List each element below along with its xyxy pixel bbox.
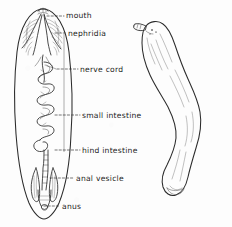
hind-intestine-structure bbox=[34, 140, 48, 190]
external-body-outline bbox=[142, 22, 201, 196]
anatomy-figure: mouth nephridia nerve cord small intesti… bbox=[0, 0, 232, 227]
label-group: mouth nephridia nerve cord small intesti… bbox=[44, 11, 142, 211]
right-external-figure bbox=[134, 22, 201, 196]
label-mouth: mouth bbox=[66, 11, 92, 20]
label-small-intestine: small intestine bbox=[82, 111, 142, 120]
nephridia-structure bbox=[22, 14, 62, 55]
body-outline bbox=[15, 9, 72, 219]
small-intestine-structure bbox=[37, 62, 54, 140]
head-sensory-spots bbox=[149, 29, 157, 34]
label-nerve-cord: nerve cord bbox=[80, 65, 123, 74]
label-hind-intestine: hind intestine bbox=[82, 146, 138, 155]
left-internal-anatomy-figure bbox=[15, 8, 72, 219]
label-anal-vesicle: anal vesicle bbox=[76, 174, 124, 183]
figure-canvas: mouth nephridia nerve cord small intesti… bbox=[0, 0, 232, 227]
label-anus: anus bbox=[62, 202, 81, 211]
anal-vesicle-structure bbox=[31, 168, 58, 202]
label-nephridia: nephridia bbox=[68, 29, 106, 38]
